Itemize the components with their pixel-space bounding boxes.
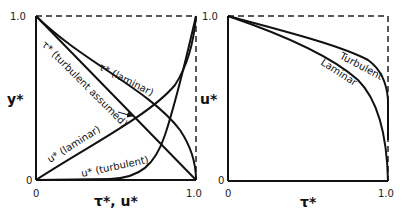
right-y-tick-bottom: 0 bbox=[218, 175, 224, 186]
left-x-label: τ*, u* bbox=[94, 193, 138, 209]
left-y-label: y* bbox=[7, 91, 24, 107]
left-x-tick-left: 0 bbox=[33, 188, 39, 199]
curve-laminar bbox=[228, 16, 388, 181]
right-x-label: τ* bbox=[300, 194, 317, 210]
right-y-label: u* bbox=[200, 91, 218, 107]
label-tau-laminar: τ* (laminar) bbox=[97, 61, 156, 98]
left-y-tick-top: 1.0 bbox=[10, 11, 26, 22]
right-y-tick-top: 1.0 bbox=[202, 11, 218, 22]
right-x-tick-right: 1.0 bbox=[378, 188, 394, 199]
left-plot: 1.0 0 0 1.0 y* τ*, u* τ* (turbulent assu… bbox=[7, 11, 202, 209]
left-y-tick-bottom: 0 bbox=[26, 175, 32, 186]
right-plot: 1.0 0 0 1.0 u* τ* Turbulent Laminar bbox=[200, 11, 394, 210]
right-x-tick-left: 0 bbox=[225, 188, 231, 199]
curve-turbulent bbox=[228, 16, 388, 140]
label-u-turbulent: u* (turbulent) bbox=[80, 154, 149, 179]
left-x-tick-right: 1.0 bbox=[186, 188, 202, 199]
label-tau-turbulent: τ* (turbulent assumed) bbox=[40, 39, 130, 129]
diagram-canvas: 1.0 0 0 1.0 y* τ*, u* τ* (turbulent assu… bbox=[0, 0, 402, 215]
